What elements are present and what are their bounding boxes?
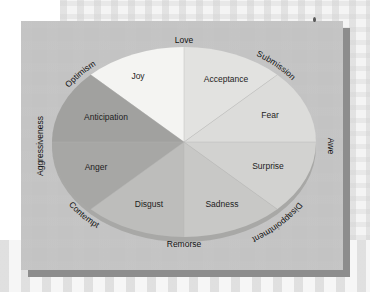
dyad-label-love: Love (175, 35, 194, 45)
wheel-graphics: Joy Acceptance Fear Surprise Sadness Dis… (35, 35, 336, 249)
sector-label-joy: Joy (131, 71, 145, 81)
figure-root: Joy Acceptance Fear Surprise Sadness Dis… (0, 0, 370, 292)
sector-label-surprise: Surprise (252, 161, 284, 171)
sector-label-fear: Fear (261, 110, 279, 120)
dyad-label-awe: Awe (326, 138, 336, 155)
sector-label-acceptance: Acceptance (204, 74, 249, 84)
emotion-wheel: Joy Acceptance Fear Surprise Sadness Dis… (0, 0, 370, 292)
sector-dividers (52, 47, 316, 237)
dyad-label-remorse: Remorse (167, 239, 202, 249)
sector-label-anticipation: Anticipation (84, 112, 128, 122)
sector-label-disgust: Disgust (135, 199, 164, 209)
sector-label-anger: Anger (85, 162, 108, 172)
sector-label-sadness: Sadness (205, 199, 238, 209)
dyad-label-aggressiveness: Aggressiveness (35, 116, 45, 176)
